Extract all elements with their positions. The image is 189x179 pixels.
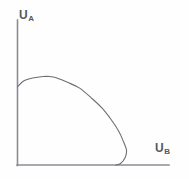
y-axis-symbol: U (19, 8, 28, 22)
x-axis-subscript: B (164, 147, 170, 156)
x-axis-label: UB (155, 142, 170, 154)
y-axis-subscript: A (28, 14, 34, 23)
y-axis-label: UA (19, 9, 34, 21)
x-axis-symbol: U (155, 141, 164, 155)
utility-frontier-figure: UA UB (0, 0, 189, 179)
